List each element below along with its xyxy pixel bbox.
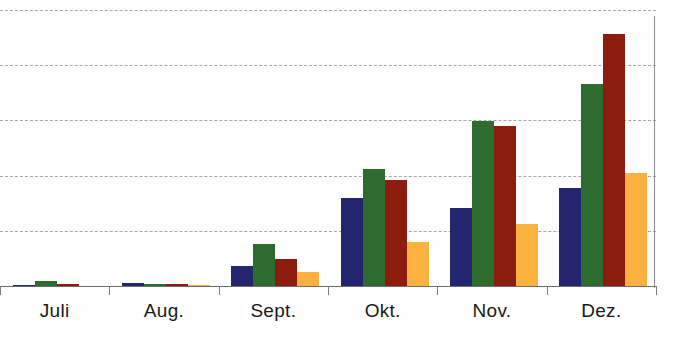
x-axis-label-nov: Nov. bbox=[437, 300, 547, 322]
bar[interactable] bbox=[450, 208, 472, 286]
bar[interactable] bbox=[341, 198, 363, 286]
axis-tick bbox=[328, 286, 329, 295]
x-axis-label-juli: Juli bbox=[0, 300, 110, 322]
bar-chart: JuliAug.Sept.Okt.Nov.Dez. bbox=[0, 0, 677, 348]
bar[interactable] bbox=[275, 259, 297, 286]
bar[interactable] bbox=[363, 169, 385, 286]
x-axis-labels: JuliAug.Sept.Okt.Nov.Dez. bbox=[0, 300, 677, 334]
axis-tick bbox=[0, 286, 1, 295]
axis-tick bbox=[219, 286, 220, 295]
bar[interactable] bbox=[472, 121, 494, 286]
x-axis-ticks bbox=[0, 286, 677, 296]
axis-tick bbox=[547, 286, 548, 295]
bar[interactable] bbox=[625, 173, 647, 286]
plot-area bbox=[0, 10, 656, 288]
x-axis-label-okt: Okt. bbox=[328, 300, 438, 322]
bar[interactable] bbox=[385, 180, 407, 286]
bars-layer bbox=[0, 10, 656, 288]
bar-group bbox=[559, 10, 647, 286]
bar-group bbox=[122, 10, 210, 286]
bar-group bbox=[450, 10, 538, 286]
bar[interactable] bbox=[559, 188, 581, 286]
axis-tick bbox=[437, 286, 438, 295]
bar-group bbox=[13, 10, 101, 286]
bar[interactable] bbox=[494, 126, 516, 286]
bar-group bbox=[231, 10, 319, 286]
bar[interactable] bbox=[581, 84, 603, 286]
bar[interactable] bbox=[516, 224, 538, 286]
bar[interactable] bbox=[407, 242, 429, 286]
x-axis-label-dez: Dez. bbox=[546, 300, 656, 322]
bar[interactable] bbox=[603, 34, 625, 286]
x-axis-label-aug: Aug. bbox=[109, 300, 219, 322]
bar-group bbox=[341, 10, 429, 286]
bar[interactable] bbox=[253, 244, 275, 286]
bar[interactable] bbox=[231, 266, 253, 286]
x-axis-label-sept: Sept. bbox=[218, 300, 328, 322]
axis-tick bbox=[109, 286, 110, 295]
y-axis-right-line bbox=[654, 16, 655, 288]
axis-tick bbox=[656, 286, 657, 295]
bar[interactable] bbox=[297, 272, 319, 286]
